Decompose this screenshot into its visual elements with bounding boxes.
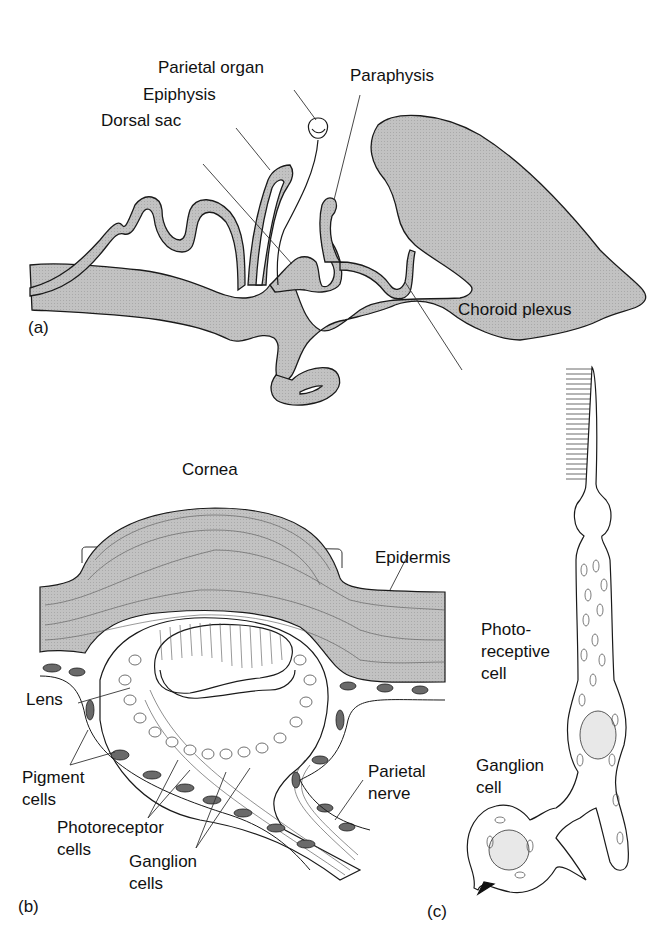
brain-section: [30, 115, 646, 405]
label-dorsal-sac: Dorsal sac: [101, 111, 181, 131]
label-epidermis: Epidermis: [375, 548, 451, 568]
label-ganglion-cells-line2: cells: [129, 874, 163, 894]
label-paraphysis: Paraphysis: [350, 66, 434, 86]
label-photoreceptive-line2: receptive: [481, 642, 550, 662]
label-ganglion-cell-line1: Ganglion: [476, 756, 544, 776]
label-parietal-nerve-line1: Parietal: [368, 762, 426, 782]
label-parietal-organ: Parietal organ: [158, 58, 264, 78]
panel-tag-a: (a): [28, 318, 49, 338]
label-pigment-line1: Pigment: [22, 768, 84, 788]
figure-drawing: [0, 0, 665, 944]
label-epiphysis: Epiphysis: [143, 85, 216, 105]
label-parietal-nerve-line2: nerve: [368, 784, 411, 804]
label-lens: Lens: [26, 690, 63, 710]
panel-tag-c: (c): [427, 902, 447, 922]
label-pigment-line2: cells: [22, 790, 56, 810]
label-ganglion-cell-line2: cell: [476, 778, 502, 798]
label-choroid-plexus: Choroid plexus: [458, 300, 571, 320]
label-photoreceptor-line2: cells: [57, 840, 91, 860]
label-cornea: Cornea: [182, 460, 238, 480]
label-photoreceptive-line1: Photo-: [481, 620, 531, 640]
eye-vesicle: [100, 618, 360, 880]
label-photoreceptive-line3: cell: [481, 664, 507, 684]
panel-tag-b: (b): [18, 897, 39, 917]
label-ganglion-cells-line1: Ganglion: [129, 852, 197, 872]
label-photoreceptor-line1: Photoreceptor: [57, 818, 164, 838]
